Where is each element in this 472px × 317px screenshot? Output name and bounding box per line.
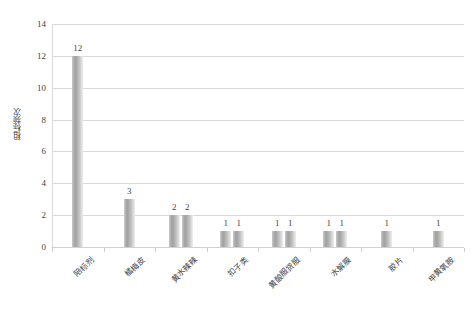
bar-value-label: 1 — [224, 219, 229, 228]
x-tick — [104, 248, 105, 252]
bar-value-label: 1 — [385, 219, 390, 228]
bar-value-label: 1 — [340, 219, 345, 228]
bar-value-label: 2 — [185, 203, 190, 212]
bar — [169, 215, 180, 247]
y-tick-label: 6 — [24, 147, 46, 156]
x-label-text: 陪标剂 — [73, 256, 96, 279]
bar-value-label: 1 — [237, 219, 242, 228]
bar — [381, 231, 392, 247]
y-axis-title-text: 租标频次 — [14, 108, 22, 140]
bar — [182, 215, 193, 247]
bar — [124, 199, 135, 247]
x-tick — [52, 248, 53, 252]
x-label-text: 胶片 — [387, 256, 404, 273]
bar-value-label: 1 — [275, 219, 280, 228]
y-tick-label: 8 — [24, 115, 46, 124]
bar — [336, 231, 347, 247]
bar-value-label: 3 — [127, 187, 132, 196]
bar — [72, 56, 83, 247]
gridline — [52, 88, 464, 89]
gridline — [52, 120, 464, 121]
y-tick-label: 2 — [24, 211, 46, 220]
bar-value-label: 1 — [436, 219, 441, 228]
gridline — [52, 215, 464, 216]
bar — [233, 231, 244, 247]
gridline — [52, 183, 464, 184]
bar — [433, 231, 444, 247]
x-label-text: 橘梅皮 — [124, 256, 147, 279]
x-label-text: 扣子类 — [227, 256, 250, 279]
x-label-text: 黄水辣辣 — [170, 256, 199, 285]
bar-value-label: 2 — [172, 203, 177, 212]
bar — [285, 231, 296, 247]
y-tick-label: 0 — [24, 243, 46, 252]
x-tick — [258, 248, 259, 252]
bar-chart: 租标频次 02468101214 1232211111111 陪标剂橘梅皮黄水辣… — [0, 0, 472, 317]
y-tick-label: 10 — [24, 83, 46, 92]
bar — [220, 231, 231, 247]
x-axis-tick-labels: 陪标剂橘梅皮黄水辣辣扣子类黄酸服贷服水解膜胶片甲黄氧胺 — [52, 248, 464, 317]
x-tick — [413, 248, 414, 252]
x-label-text: 水解膜 — [330, 256, 353, 279]
gridline — [52, 24, 464, 25]
y-tick-label: 14 — [24, 20, 46, 29]
bar — [272, 231, 283, 247]
x-label-text: 甲黄氧胺 — [428, 256, 457, 285]
plot-area: 1232211111111 — [52, 24, 464, 247]
y-axis-tick-labels: 02468101214 — [22, 0, 46, 317]
x-tick — [155, 248, 156, 252]
y-tick-label: 4 — [24, 179, 46, 188]
x-label-text: 黄酸服贷服 — [267, 256, 301, 290]
y-axis-line — [52, 24, 53, 247]
gridline — [52, 56, 464, 57]
gridline — [52, 151, 464, 152]
x-tick — [310, 248, 311, 252]
x-tick — [207, 248, 208, 252]
bar-value-label: 12 — [73, 44, 82, 53]
x-tick — [361, 248, 362, 252]
x-tick — [464, 248, 465, 252]
bar-value-label: 1 — [327, 219, 332, 228]
y-tick-label: 12 — [24, 51, 46, 60]
bar-value-label: 1 — [288, 219, 293, 228]
